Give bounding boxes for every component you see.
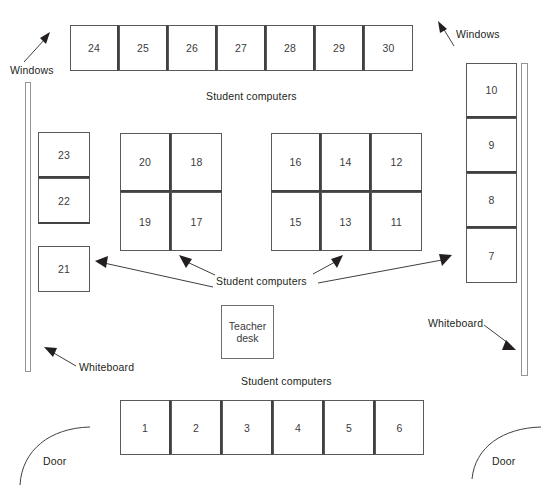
desk-28[interactable]: 28 [266,25,315,71]
arrow-windows-left [24,32,50,62]
desk-17[interactable]: 17 [171,192,222,251]
desk-21[interactable]: 21 [38,246,90,292]
door-arc-right [472,427,541,479]
desk-10[interactable]: 10 [466,63,517,118]
classroom-layout-diagram: 24 25 26 27 28 29 30 Student computers 2… [0,0,558,503]
caption-student-computers-middle: Student computers [216,275,307,287]
caption-student-computers-top: Student computers [206,90,297,102]
teacher-desk[interactable]: Teacher desk [221,305,274,359]
window-wall-left [25,82,31,372]
label-whiteboard-left: Whiteboard [79,361,134,373]
desk-11[interactable]: 11 [371,192,422,251]
label-whiteboard-right: Whiteboard [428,317,483,329]
arrow-whiteboard-left [44,347,76,366]
desk-3[interactable]: 3 [222,400,273,455]
arrow-whiteboard-right [484,325,516,350]
desk-8[interactable]: 8 [466,173,517,228]
label-windows-right: Windows [456,28,500,40]
desk-25[interactable]: 25 [119,25,168,71]
arrow-windows-right [438,21,454,46]
teacher-desk-label: Teacher desk [229,320,266,344]
teacher-desk-label-line2: desk [236,332,258,344]
desk-13[interactable]: 13 [321,192,371,251]
desk-30[interactable]: 30 [364,25,413,71]
desk-19[interactable]: 19 [120,192,171,251]
desk-5[interactable]: 5 [324,400,375,455]
desk-4[interactable]: 4 [273,400,324,455]
desk-26[interactable]: 26 [168,25,217,71]
arrow-student-computers-to-left-column [95,256,213,287]
label-door-left: Door [43,455,66,467]
label-door-right: Door [492,455,515,467]
desk-12[interactable]: 12 [371,133,422,192]
desk-2[interactable]: 2 [171,400,222,455]
desk-22[interactable]: 22 [38,178,90,224]
desk-15[interactable]: 15 [271,192,321,251]
desk-6[interactable]: 6 [375,400,424,455]
desk-18[interactable]: 18 [171,133,222,192]
desk-16[interactable]: 16 [271,133,321,192]
desk-14[interactable]: 14 [321,133,371,192]
arrow-student-computers-to-right-column [318,254,452,283]
desk-7[interactable]: 7 [466,228,517,283]
arrow-student-computers-to-right-block [313,255,343,274]
label-windows-left: Windows [10,64,54,76]
desk-29[interactable]: 29 [315,25,364,71]
desk-24[interactable]: 24 [70,25,119,71]
desk-20[interactable]: 20 [120,133,171,192]
desk-1[interactable]: 1 [120,400,171,455]
arrow-student-computers-to-middle-block [179,255,215,275]
caption-student-computers-bottom: Student computers [241,375,332,387]
window-wall-right [521,63,528,376]
desk-23[interactable]: 23 [38,132,90,178]
teacher-desk-label-line1: Teacher [229,320,266,332]
desk-9[interactable]: 9 [466,118,517,173]
desk-27[interactable]: 27 [217,25,266,71]
